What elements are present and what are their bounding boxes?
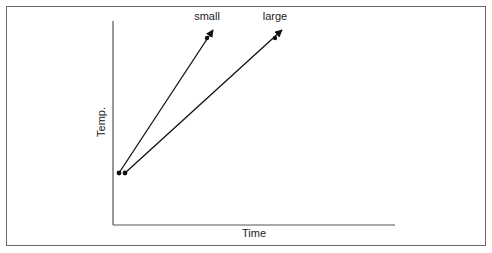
line-label-small: small	[194, 10, 220, 22]
line-label-large: large	[263, 10, 287, 22]
x-axis-label: Time	[242, 227, 266, 239]
start-dot-small	[117, 171, 122, 176]
mid-dot-small	[205, 36, 209, 40]
line-small: small	[117, 10, 220, 175]
temp-time-diagram: Time Temp. small large	[0, 0, 492, 253]
line-large: large	[123, 10, 288, 175]
y-axis-label: Temp.	[95, 107, 107, 137]
start-dot-large	[123, 171, 128, 176]
mid-dot-large	[273, 36, 277, 40]
